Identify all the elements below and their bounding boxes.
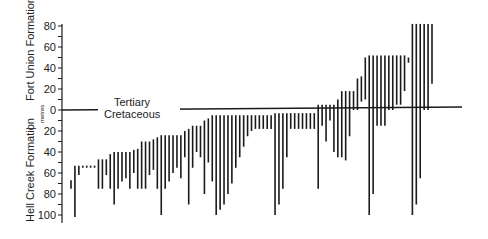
range-bar-chart: 02040608020406080100 — [0, 0, 488, 239]
y-tick-label: 20 — [44, 83, 56, 95]
y-tick-label: 40 — [44, 146, 56, 158]
boundary-label-below: Cretaceous — [104, 108, 160, 120]
y-tick-label: 100 — [38, 209, 56, 221]
range-bars — [71, 24, 432, 217]
y-tick-label: 20 — [44, 125, 56, 137]
y-tick-label: 80 — [44, 188, 56, 200]
upper-formation-label: Fort Union Formation — [24, 0, 36, 101]
y-tick-label: 60 — [44, 167, 56, 179]
boundary-label-above: Tertiary — [114, 96, 150, 108]
y-tick-label: 60 — [44, 41, 56, 53]
y-tick-label: 0 — [50, 104, 56, 116]
y-tick-label: 80 — [44, 20, 56, 32]
lower-formation-label: Hell Creek Formation — [24, 118, 36, 222]
y-tick-label: 40 — [44, 62, 56, 74]
y-axis-unit-label: metres — [39, 105, 45, 123]
